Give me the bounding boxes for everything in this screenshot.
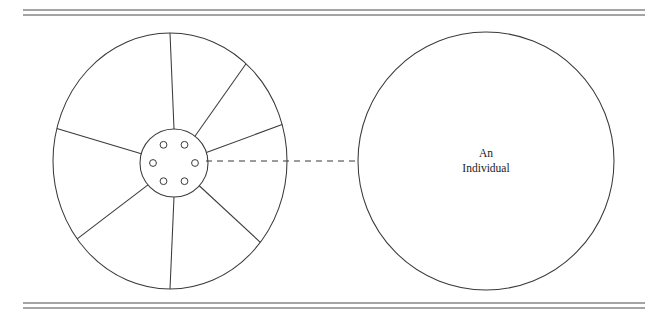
wheel-spoke-5 <box>170 197 174 289</box>
bolt-hole-1 <box>160 141 167 148</box>
diagram-canvas: An Individual <box>0 0 667 318</box>
wheel-spoke-2 <box>195 64 246 137</box>
individual-circle <box>358 32 614 290</box>
bolt-hole-3 <box>192 160 199 167</box>
bolt-hole-4 <box>181 178 188 185</box>
bottom-rule <box>23 303 645 308</box>
wheel-spoke-7 <box>57 129 141 154</box>
bolt-hole-5 <box>160 178 167 185</box>
top-rule <box>23 10 645 15</box>
bolt-hole-2 <box>181 141 188 148</box>
wheel-spoke-4 <box>199 186 260 243</box>
wheel-bolt-holes <box>150 141 199 184</box>
figure-root: An Individual <box>0 0 667 318</box>
wheel-spokes <box>57 33 282 289</box>
individual-label-line2: Individual <box>462 162 509 174</box>
wheel-hub <box>140 129 208 197</box>
wheel-spoke-3 <box>206 125 282 153</box>
wheel-spoke-6 <box>77 185 148 239</box>
bolt-hole-6 <box>150 160 157 167</box>
wheel-spoke-1 <box>170 33 174 129</box>
individual-label-line1: An <box>479 147 493 159</box>
individual-group: An Individual <box>358 32 614 290</box>
